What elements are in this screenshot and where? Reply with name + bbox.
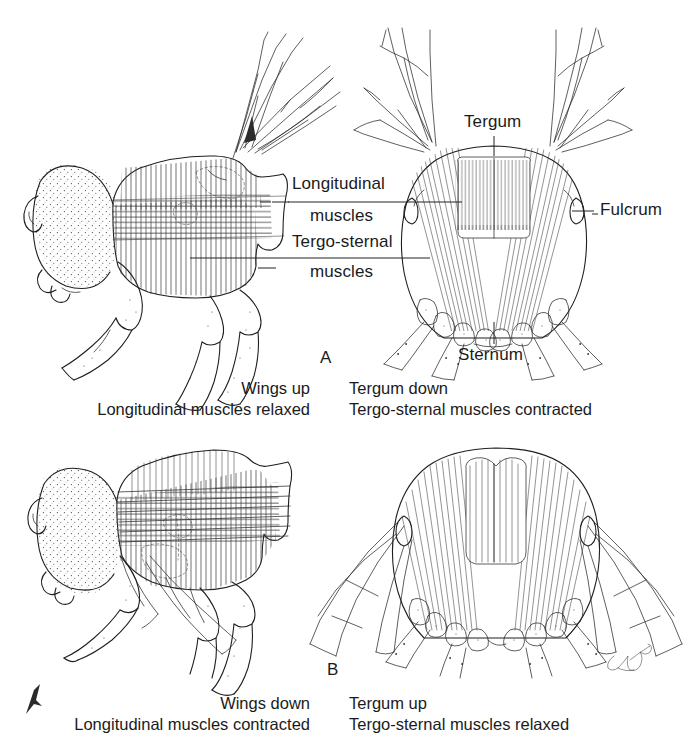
label-longitudinal-muscles-line2: muscles: [310, 206, 373, 226]
caption-b-left-line2: Longitudinal muscles contracted: [0, 714, 310, 735]
artist-signature: [608, 644, 652, 671]
panel-a-lateral-view: [24, 32, 340, 410]
wings-up-lateral: [233, 32, 340, 158]
caption-b-left-line1: Wings down: [0, 693, 310, 714]
wings-cross-left-a: [354, 28, 436, 152]
label-longitudinal-muscles-line1: Longitudinal: [292, 174, 385, 194]
caption-b-right-line2: Tergo-sternal muscles relaxed: [349, 714, 569, 735]
label-tergum: Tergum: [464, 112, 521, 132]
panel-b-lateral-view: [28, 450, 294, 695]
fulcrum-right-b: [580, 516, 596, 546]
panel-a-cross-section: [354, 28, 632, 380]
diagram-artwork: [0, 0, 690, 748]
caption-a-right-line2: Tergo-sternal muscles contracted: [349, 399, 592, 420]
label-tergo-sternal-muscles-line2: muscles: [310, 262, 373, 282]
caption-a-left-line2: Longitudinal muscles relaxed: [0, 399, 310, 420]
panel-id-a: A: [320, 348, 331, 368]
caption-a-right-line1: Tergum down: [349, 378, 448, 399]
longitudinal-muscles-block-b: [466, 458, 527, 564]
panel-b-cross-section: [310, 448, 682, 678]
fulcrum-left-b: [396, 516, 412, 546]
caption-b-right-line1: Tergum up: [349, 693, 427, 714]
coxae-b: [409, 598, 583, 651]
caption-a-left-line1: Wings up: [0, 378, 310, 399]
label-fulcrum: Fulcrum: [600, 200, 662, 220]
figure-canvas: Longitudinal muscles Tergo-sternal muscl…: [0, 0, 690, 748]
label-tergo-sternal-muscles-line1: Tergo-sternal: [292, 232, 393, 252]
head-stipple-b: [34, 462, 126, 598]
wings-cross-right-a: [550, 28, 632, 152]
label-sternum: Sternum: [458, 345, 523, 365]
coxae-a: [417, 298, 569, 351]
panel-id-b: B: [327, 660, 338, 680]
